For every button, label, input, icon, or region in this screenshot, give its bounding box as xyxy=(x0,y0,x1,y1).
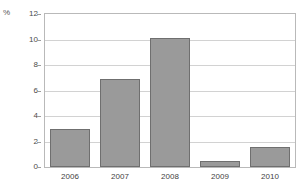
bar-2009[interactable] xyxy=(200,161,240,167)
bar-slot xyxy=(200,14,240,167)
bar-slot xyxy=(50,14,90,167)
bar-slot xyxy=(250,14,290,167)
bar-2008[interactable] xyxy=(150,38,190,167)
y-axis-tick-mark xyxy=(37,91,41,92)
bar-2010[interactable] xyxy=(250,147,290,167)
x-axis-tick-label: 2008 xyxy=(145,172,195,182)
bar-2006[interactable] xyxy=(50,129,90,167)
bar-slot xyxy=(150,14,190,167)
bar-slot xyxy=(100,14,140,167)
y-axis: 024681012 xyxy=(0,13,41,168)
y-axis-tick-mark xyxy=(37,142,41,143)
x-axis-tick-label: 2007 xyxy=(95,172,145,182)
x-axis-tick-label: 2006 xyxy=(45,172,95,182)
x-axis-tick-label: 2010 xyxy=(245,172,295,182)
bar-2007[interactable] xyxy=(100,79,140,167)
x-axis-tick-label: 2009 xyxy=(195,172,245,182)
y-axis-tick-mark xyxy=(37,167,41,168)
y-axis-tick-mark xyxy=(37,116,41,117)
x-axis: 20062007200820092010 xyxy=(45,172,295,186)
y-axis-tick-mark xyxy=(37,40,41,41)
y-axis-tick-mark xyxy=(37,65,41,66)
bar-chart: % 024681012 20062007200820092010 xyxy=(0,0,305,193)
y-axis-tick-mark xyxy=(37,14,41,15)
bars-group xyxy=(45,14,295,167)
